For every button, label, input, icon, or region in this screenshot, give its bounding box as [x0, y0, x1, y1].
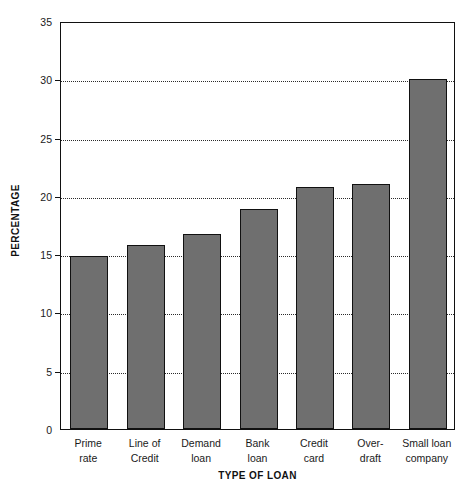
bar — [296, 187, 334, 429]
x-axis-title: TYPE OF LOAN — [60, 470, 455, 481]
x-tick-label-line: Bank — [246, 437, 270, 449]
x-tick-label-line: company — [399, 451, 455, 466]
y-tick-label: 25 — [26, 133, 52, 145]
x-tick-label-line: loan — [173, 451, 229, 466]
y-tick-mark — [55, 139, 60, 140]
x-tick-label-line: Line of — [129, 437, 161, 449]
x-tick-label: Over-draft — [342, 436, 398, 465]
y-tick-mark — [55, 372, 60, 373]
x-tick-label: Line ofCredit — [116, 436, 172, 465]
x-tick-label: Bankloan — [229, 436, 285, 465]
y-tick-label: 35 — [26, 16, 52, 28]
y-tick-mark — [55, 80, 60, 81]
y-tick-label: 20 — [26, 191, 52, 203]
y-tick-label: 30 — [26, 74, 52, 86]
bar — [409, 79, 447, 429]
gridline-30 — [61, 81, 454, 82]
plot-area — [60, 22, 455, 430]
x-tick-label-line: Prime — [75, 437, 102, 449]
x-tick-label-line: draft — [342, 451, 398, 466]
x-tick-label-line: rate — [60, 451, 116, 466]
x-tick-label-line: Small loan — [402, 437, 451, 449]
x-tick-label-line: Over- — [357, 437, 383, 449]
y-tick-mark — [55, 313, 60, 314]
bar — [352, 184, 390, 429]
x-tick-label: Small loancompany — [399, 436, 455, 465]
x-tick-label-line: Credit — [116, 451, 172, 466]
x-tick-label-line: Credit — [300, 437, 328, 449]
x-tick-label-line: Demand — [181, 437, 221, 449]
y-tick-label: 15 — [26, 249, 52, 261]
bar — [127, 245, 165, 429]
gridline-25 — [61, 140, 454, 141]
bar — [240, 209, 278, 429]
y-axis-title-label: PERCENTAGE — [10, 184, 21, 257]
y-tick-label: 5 — [26, 366, 52, 378]
y-tick-mark — [55, 197, 60, 198]
bar — [183, 234, 221, 429]
x-tick-label: Creditcard — [286, 436, 342, 465]
x-tick-label-line: card — [286, 451, 342, 466]
gridline-20 — [61, 198, 454, 199]
y-tick-label: 10 — [26, 307, 52, 319]
y-tick-mark — [55, 255, 60, 256]
y-tick-label: 0 — [26, 424, 52, 436]
x-tick-label-line: loan — [229, 451, 285, 466]
bar — [70, 256, 108, 429]
x-tick-label: Primerate — [60, 436, 116, 465]
bar-chart-figure: PERCENTAGE 05101520253035 PrimerateLine … — [0, 0, 469, 494]
x-tick-label: Demandloan — [173, 436, 229, 465]
